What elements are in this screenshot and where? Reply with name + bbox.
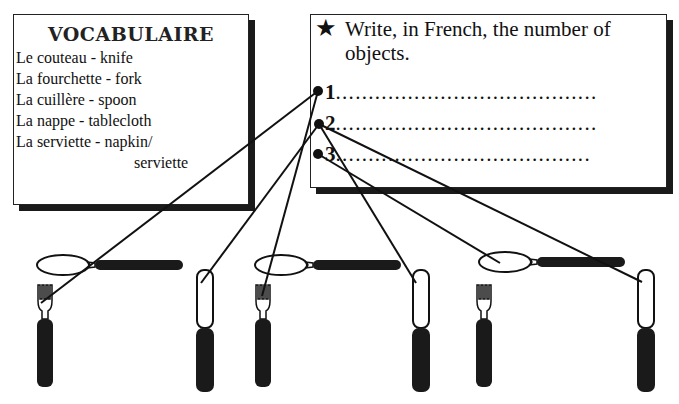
connector-lines	[41, 91, 642, 303]
knife-1	[196, 270, 214, 392]
cutlery-illustration	[0, 0, 679, 404]
bullet-2	[314, 119, 324, 129]
spoon-1	[37, 255, 183, 275]
fork-2	[255, 285, 271, 387]
bullet-3	[313, 149, 323, 159]
spoon-2	[255, 255, 401, 275]
bullet-1	[313, 86, 323, 96]
knife-3	[637, 270, 655, 392]
fork-3	[476, 285, 492, 387]
knife-2	[412, 270, 430, 392]
